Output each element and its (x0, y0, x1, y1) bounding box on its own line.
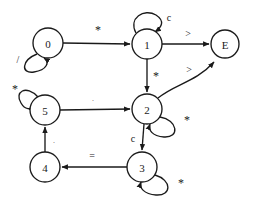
diagram-canvas: * > * > . c = (0, 0, 259, 203)
transition-0-to-1: * (63, 23, 130, 44)
transition-label-0-to-1: * (95, 23, 101, 37)
self-loop-label-0: / (17, 54, 20, 65)
transition-4-to-5: . (45, 127, 55, 152)
state-node-4[interactable]: 4 (30, 152, 60, 182)
transition-2-to-E: > (158, 62, 214, 98)
transition-label-2-to-E: > (186, 64, 192, 75)
transition-label-3-to-4: = (89, 150, 95, 161)
state-label-2: 2 (144, 104, 150, 116)
self-loop-label-5: * (12, 82, 18, 96)
state-node-3[interactable]: 3 (127, 152, 157, 182)
transition-1-to-E: > (162, 28, 209, 45)
self-loop-label-3: * (178, 176, 184, 190)
self-loop-label-1: c (167, 12, 172, 23)
state-node-E[interactable]: E (211, 30, 239, 58)
transition-3-to-4: = (62, 150, 127, 168)
state-machine-diagram: * > * > . c = (0, 0, 259, 203)
transition-label-4-to-5: . (53, 136, 55, 145)
state-label-0: 0 (45, 38, 51, 50)
transition-label-5-to-2: . (92, 94, 94, 103)
state-label-3: 3 (139, 162, 145, 174)
transition-2-to-3: c (131, 124, 144, 150)
transition-label-1-to-2: * (153, 69, 159, 83)
state-node-0[interactable]: 0 (33, 28, 63, 58)
transition-5-to-2: . (60, 94, 130, 111)
self-loop-label-2: * (184, 113, 190, 127)
state-label-1: 1 (144, 39, 150, 51)
state-label-5: 5 (42, 105, 48, 117)
state-label-4: 4 (42, 162, 48, 174)
state-node-5[interactable]: 5 (30, 95, 60, 125)
state-label-E: E (222, 39, 229, 51)
state-node-2[interactable]: 2 (132, 94, 162, 124)
state-node-1[interactable]: 1 (132, 29, 162, 59)
transition-label-2-to-3: c (131, 133, 136, 144)
transition-1-to-2: * (147, 59, 159, 92)
transition-label-1-to-E: > (185, 28, 191, 39)
